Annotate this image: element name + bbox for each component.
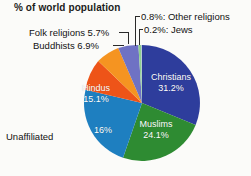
- slice-label-hindus-name: Hindus: [72, 83, 120, 94]
- pie-chart-figure: % of world population Christians 31.2%: [0, 0, 251, 176]
- callout-label-other-religions: 0.8%: Other religions: [141, 11, 230, 22]
- slice-label-christians-name: Christians: [139, 72, 203, 83]
- callout-label-jews: 0.2%: Jews: [144, 24, 193, 35]
- slice-label-muslims-value: 24.1%: [126, 130, 186, 141]
- chart-title: % of world population: [14, 2, 121, 13]
- slice-label-christians: Christians 31.2%: [139, 72, 203, 93]
- leader-line-folk-religions: [119, 32, 128, 44]
- slice-label-hindus: Hindus 15.1%: [72, 83, 120, 104]
- slice-label-muslims-name: Muslims: [126, 119, 186, 130]
- callout-label-folk-religions: Folk religions 5.7%: [29, 27, 109, 38]
- slice-label-christians-value: 31.2%: [139, 83, 203, 94]
- callout-label-buddhists: Buddhists 6.9%: [33, 40, 99, 51]
- slice-label-hindus-value: 15.1%: [72, 94, 120, 105]
- slice-label-muslims: Muslims 24.1%: [126, 119, 186, 140]
- callout-label-unaffiliated: Unaffiliated: [6, 131, 53, 142]
- slice-label-unaffiliated-value: 16%: [88, 125, 118, 136]
